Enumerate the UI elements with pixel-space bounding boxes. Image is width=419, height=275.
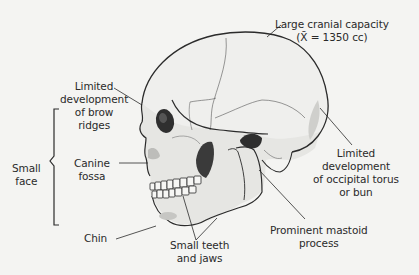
label-text: face [12, 175, 41, 188]
label-brow-ridges: Limited development of brow ridges [60, 80, 128, 132]
label-text: Small [12, 162, 41, 175]
label-text: or bun [313, 186, 399, 199]
label-text: of occipital torus [313, 173, 399, 186]
label-text: process [270, 237, 368, 250]
label-teeth-jaws: Small teeth and jaws [170, 239, 229, 265]
label-text: Canine [74, 157, 110, 170]
label-occipital-torus: Limited development of occipital torus o… [313, 147, 399, 199]
label-text: Small teeth [170, 239, 229, 252]
label-cranial-capacity: Large cranial capacity (X̄ = 1350 cc) [275, 18, 389, 44]
label-text: Chin [84, 232, 107, 245]
label-text: Limited [313, 147, 399, 160]
label-mastoid-process: Prominent mastoid process [270, 224, 368, 250]
label-text: (X̄ = 1350 cc) [275, 31, 389, 44]
label-text: development [60, 93, 128, 106]
label-text: Prominent mastoid [270, 224, 368, 237]
skull-diagram: Large cranial capacity (X̄ = 1350 cc) Li… [0, 0, 419, 275]
label-canine-fossa: Canine fossa [74, 157, 110, 183]
label-text: Limited [60, 80, 128, 93]
label-small-face: Small face [12, 162, 41, 188]
label-chin: Chin [84, 232, 107, 245]
label-text: development [313, 160, 399, 173]
label-text: ridges [60, 119, 128, 132]
label-text: of brow [60, 106, 128, 119]
label-text: Large cranial capacity [275, 18, 389, 31]
face-bracket [50, 109, 59, 225]
label-text: fossa [74, 170, 110, 183]
label-text: and jaws [170, 252, 229, 265]
